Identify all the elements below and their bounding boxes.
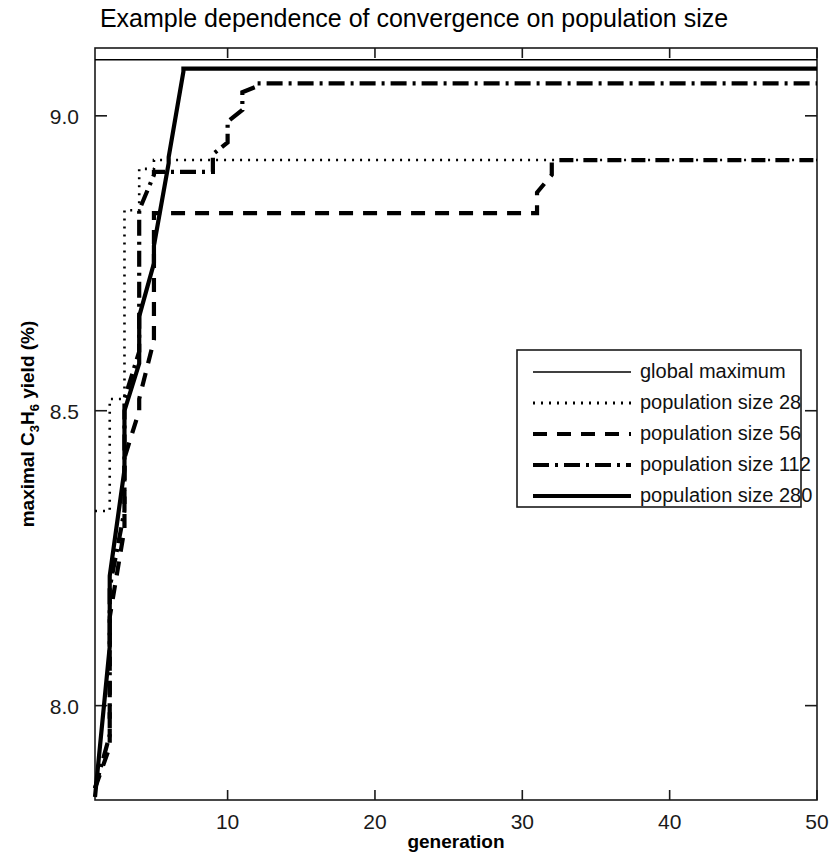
y-tick-label: 8.0 xyxy=(50,695,79,718)
y-axis-title-mid: H xyxy=(17,411,38,425)
y-axis-title-sub1: 3 xyxy=(27,425,42,432)
x-tick-label: 40 xyxy=(658,810,681,833)
y-axis-title: maximal C3H6 yield (%) xyxy=(17,321,42,528)
legend-label: population size 112 xyxy=(640,453,811,475)
x-axis-title: generation xyxy=(407,831,504,852)
y-axis-title-tail: yield (%) xyxy=(17,321,38,404)
chart-figure: Example dependence of convergence on pop… xyxy=(0,0,829,854)
svg-text:maximal C3H6 yield (%): maximal C3H6 yield (%) xyxy=(17,321,42,528)
legend-label: population size 28 xyxy=(640,391,801,413)
legend-label: global maximum xyxy=(640,360,786,382)
y-axis-title-lead: maximal C xyxy=(17,432,38,527)
y-tick-label: 8.5 xyxy=(50,400,79,423)
y-axis-title-sub2: 6 xyxy=(27,404,42,411)
convergence-line-chart: Example dependence of convergence on pop… xyxy=(0,0,829,854)
x-tick-label: 50 xyxy=(805,810,828,833)
x-tick-label: 10 xyxy=(216,810,239,833)
y-tick-label: 9.0 xyxy=(50,105,79,128)
chart-legend: global maximumpopulation size 28populati… xyxy=(517,350,812,507)
x-tick-label: 30 xyxy=(511,810,534,833)
chart-title: Example dependence of convergence on pop… xyxy=(100,4,728,32)
legend-label: population size 56 xyxy=(640,422,801,444)
x-tick-label: 20 xyxy=(363,810,386,833)
legend-label: population size 280 xyxy=(640,484,812,506)
